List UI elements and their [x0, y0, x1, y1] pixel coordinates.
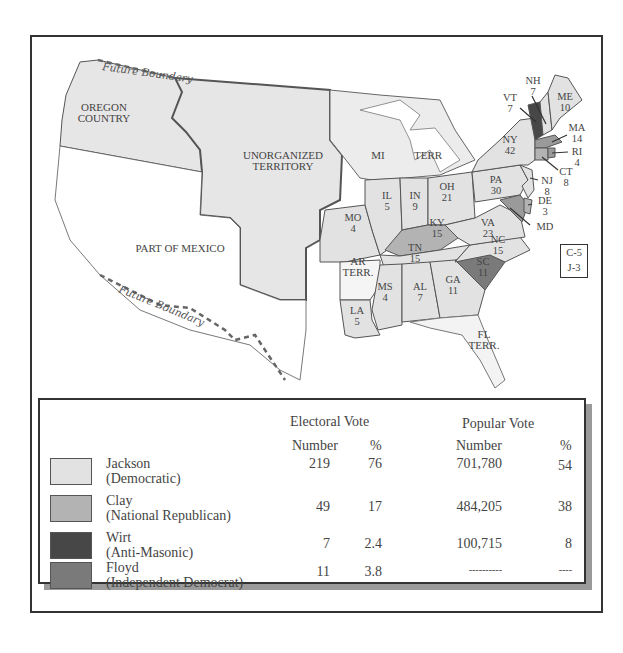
- popular-vote-header: Popular Vote: [462, 416, 534, 432]
- md-clay-votes: C-5: [561, 245, 587, 260]
- svg-text:15: 15: [432, 228, 443, 239]
- state-FL: [410, 315, 505, 388]
- pv-number: 100,715: [440, 536, 502, 552]
- label-terr: TERR: [414, 149, 443, 161]
- svg-text:42: 42: [505, 145, 516, 156]
- pv-pct: ----: [540, 564, 572, 575]
- svg-text:MS: MS: [377, 281, 392, 292]
- candidate-name: Jackson: [106, 456, 181, 471]
- svg-text:NC: NC: [491, 234, 506, 245]
- candidate-party: (National Republican): [106, 508, 231, 523]
- svg-text:3: 3: [542, 206, 547, 217]
- candidate-name: Clay: [106, 493, 231, 508]
- svg-text:VT: VT: [503, 92, 518, 103]
- svg-text:5: 5: [354, 316, 359, 327]
- pv-pct: 38: [540, 499, 572, 515]
- svg-text:DE: DE: [538, 195, 552, 206]
- svg-text:IL: IL: [382, 190, 392, 201]
- candidate-party: (Democratic): [106, 471, 181, 486]
- pv-pct: 8: [540, 536, 572, 552]
- legend-row-floyd: Floyd(Independent Democrat) 11 3.8 -----…: [40, 560, 584, 582]
- pv-number: 484,205: [440, 499, 502, 515]
- svg-text:NJ: NJ: [541, 175, 553, 186]
- candidate-name: Wirt: [106, 530, 193, 545]
- ev-number: 7: [290, 536, 330, 552]
- svg-text:SC: SC: [477, 256, 490, 267]
- svg-text:VA: VA: [481, 217, 495, 228]
- svg-text:10: 10: [560, 102, 571, 113]
- label-ar-terr: TERR.: [343, 266, 374, 278]
- md-split-box: C-5 J-3: [560, 244, 588, 278]
- candidate-party: (Independent Democrat): [106, 575, 243, 590]
- svg-text:11: 11: [478, 267, 488, 278]
- floyd-swatch: [50, 562, 92, 589]
- svg-text:GA: GA: [445, 274, 461, 285]
- label-oregon-2: COUNTRY: [78, 112, 131, 124]
- ev-pct: 17: [350, 499, 382, 515]
- svg-text:7: 7: [507, 103, 512, 114]
- svg-text:NY: NY: [502, 134, 518, 145]
- svg-text:14: 14: [572, 133, 583, 144]
- svg-text:15: 15: [410, 253, 421, 264]
- pv-number: ----------: [440, 564, 502, 575]
- svg-text:NH: NH: [525, 75, 541, 86]
- svg-text:KY: KY: [429, 217, 445, 228]
- ev-number-header: Number: [292, 438, 338, 454]
- svg-text:OH: OH: [439, 181, 455, 192]
- svg-text:4: 4: [382, 292, 388, 303]
- ev-number: 49: [290, 499, 330, 515]
- pv-pct: 54: [540, 458, 572, 474]
- results-legend: Electoral Vote Popular Vote Number % Num…: [38, 398, 586, 584]
- svg-text:PA: PA: [490, 174, 503, 185]
- ev-pct: 76: [350, 456, 382, 472]
- legend-row-jackson: Jackson(Democratic) 219 76 701,780 54: [40, 456, 584, 496]
- jackson-swatch: [50, 458, 92, 485]
- wirt-swatch: [50, 532, 92, 559]
- svg-text:4: 4: [350, 223, 356, 234]
- svg-text:LA: LA: [350, 305, 364, 316]
- electoral-vote-header: Electoral Vote: [290, 414, 369, 430]
- ev-pct-header: %: [370, 438, 382, 454]
- svg-text:MA: MA: [569, 122, 586, 133]
- svg-text:7: 7: [417, 292, 422, 303]
- state-DE: [524, 198, 532, 214]
- md-jackson-votes: J-3: [561, 260, 587, 275]
- svg-text:30: 30: [491, 185, 502, 196]
- svg-text:IN: IN: [409, 190, 420, 201]
- label-territory: TERRITORY: [253, 160, 314, 172]
- svg-text:4: 4: [574, 157, 580, 168]
- svg-text:MD: MD: [537, 221, 554, 232]
- svg-text:CT: CT: [559, 166, 573, 177]
- svg-text:5: 5: [384, 201, 389, 212]
- state-CT: [535, 148, 548, 160]
- candidate-name: Floyd: [106, 560, 243, 575]
- legend-row-clay: Clay(National Republican) 49 17 484,205 …: [40, 493, 584, 533]
- svg-text:MO: MO: [345, 212, 362, 223]
- ev-pct: 2.4: [350, 536, 382, 552]
- svg-text:15: 15: [493, 245, 504, 256]
- state-NY: [472, 118, 535, 172]
- label-fl-terr: TERR.: [469, 339, 500, 351]
- label-mexico: PART OF MEXICO: [135, 242, 224, 254]
- pv-pct-header: %: [560, 438, 572, 454]
- ev-pct: 3.8: [350, 564, 382, 580]
- ev-number: 219: [290, 456, 330, 472]
- svg-text:AL: AL: [413, 281, 427, 292]
- pv-number: 701,780: [440, 456, 502, 472]
- svg-text:TN: TN: [408, 242, 422, 253]
- svg-text:11: 11: [448, 285, 458, 296]
- candidate-party: (Anti-Masonic): [106, 545, 193, 560]
- ev-number: 11: [290, 564, 330, 580]
- svg-text:RI: RI: [572, 146, 583, 157]
- svg-text:ME: ME: [557, 91, 573, 102]
- clay-swatch: [50, 495, 92, 522]
- pv-number-header: Number: [456, 438, 502, 454]
- svg-text:9: 9: [412, 201, 417, 212]
- svg-text:21: 21: [442, 192, 453, 203]
- label-mi: MI: [371, 149, 385, 161]
- svg-text:7: 7: [530, 86, 535, 97]
- svg-text:8: 8: [563, 177, 568, 188]
